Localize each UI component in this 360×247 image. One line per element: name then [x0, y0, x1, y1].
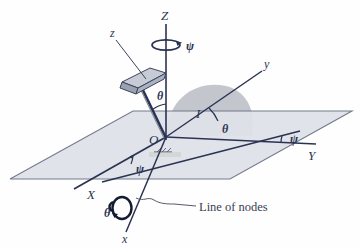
- psi-Y-node-label: ψ: [290, 132, 299, 146]
- theta-y-axis-label: θ: [222, 122, 229, 136]
- z-label-leader-line: [116, 40, 146, 79]
- Y-axis-label: Y: [308, 148, 317, 163]
- origin-label: O: [149, 132, 159, 147]
- theta-nutation-label: θ: [157, 89, 164, 103]
- y-body-axis-label: y: [263, 57, 270, 71]
- Z-axis-label: Z: [161, 8, 169, 23]
- line-of-nodes-annotation: Line of nodes: [199, 200, 268, 214]
- X-axis-label: X: [86, 187, 96, 202]
- horizontal-plane: [10, 111, 352, 179]
- euler-angles-figure: Z Y X z y x O θ θ θ ψ ψ ψ I Line of node…: [0, 0, 360, 247]
- z-body-axis-label: z: [109, 26, 115, 40]
- line-of-nodes-leader: [136, 198, 196, 206]
- psi-X-node-label: ψ: [136, 162, 145, 176]
- angle-arc-theta-top: [152, 104, 166, 110]
- theta-rotation-arrow-x: [109, 197, 131, 219]
- psi-precession-label: ψ: [186, 39, 195, 53]
- plane-label: I: [195, 106, 201, 121]
- figure-canvas: Z Y X z y x O θ θ θ ψ ψ ψ I Line of node…: [0, 0, 360, 247]
- psi-rotation-arrow-Z: [152, 40, 182, 50]
- x-body-axis-label: x: [121, 232, 128, 246]
- theta-spin-label: θ: [104, 206, 111, 220]
